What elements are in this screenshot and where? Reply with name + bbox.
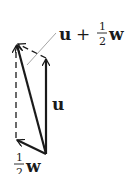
label-sum-plus: + [76,24,90,44]
vector-half-w-shifted-dashed [18,44,46,58]
label-half-w-denominator: 2 [16,166,23,174]
label-u: u [52,94,64,114]
label-half-w: 1 2 w [14,151,41,174]
label-sum: u + 1 2 w [59,20,124,48]
label-half-w-w: w [25,156,41,174]
label-sum-u: u [59,24,71,44]
label-sum-denominator: 2 [99,35,106,48]
label-sum-numerator: 1 [99,20,106,33]
label-sum-w: w [108,24,124,44]
leader-line [27,33,56,65]
vector-sum-arrow [17,45,46,154]
label-half-w-numerator: 1 [16,151,23,164]
vector-diagram: u + 1 2 w u 1 2 w [0,0,136,174]
